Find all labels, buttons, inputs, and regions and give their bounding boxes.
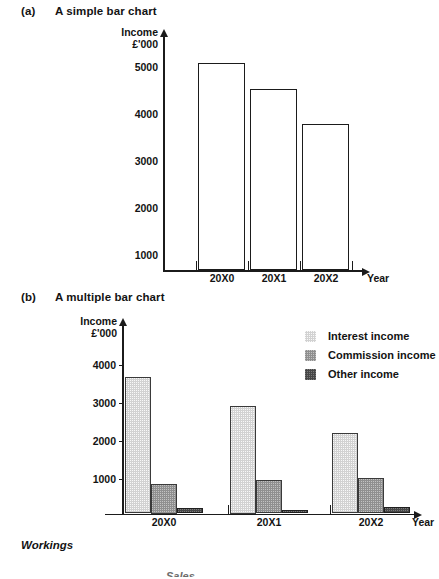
chart-b-ytick-mark-1000	[119, 479, 124, 480]
cut-off-label: Sales	[166, 570, 195, 577]
legend-item-interest-income: Interest income	[305, 330, 409, 342]
legend-swatch-interest-income	[305, 331, 316, 342]
multiple-bar-chart: Income £'000 Year 4000 3000 2000 1000 20…	[0, 0, 439, 579]
chart-b-xtick-20X2: 20X2	[345, 516, 397, 528]
legend-swatch-other-income	[305, 369, 316, 380]
chart-b-x-axis	[105, 514, 415, 516]
chart-b-ytick-mark-3000	[119, 403, 124, 404]
chart-b-y-axis-arrow-icon	[119, 318, 127, 326]
chart-b-bar-20X1-other-income	[282, 510, 308, 513]
chart-b-x-axis-title: Year	[412, 516, 434, 528]
legend-label-interest-income: Interest income	[328, 330, 409, 342]
chart-b-bar-20X0-commission-income	[151, 484, 177, 514]
chart-b-y-axis	[122, 325, 124, 515]
chart-b-ytick-mark-4000	[119, 365, 124, 366]
legend-label-commission-income: Commission income	[328, 349, 436, 361]
chart-b-y-axis-title-line1: Income	[80, 315, 117, 327]
legend-item-other-income: Other income	[305, 368, 399, 380]
chart-b-bar-20X0-interest-income	[125, 377, 151, 513]
chart-b-xsep-1	[123, 505, 124, 514]
chart-b-ytick-2000: 2000	[70, 435, 116, 447]
chart-b-xsep-3	[330, 505, 331, 514]
chart-b-bar-20X1-commission-income	[256, 480, 282, 513]
chart-b-bar-20X2-interest-income	[332, 433, 358, 513]
chart-b-bar-20X0-other-income	[177, 508, 203, 514]
chart-b-ytick-1000: 1000	[70, 473, 116, 485]
chart-b-y-axis-title: Income £'000	[58, 316, 117, 339]
chart-b-bar-20X1-interest-income	[230, 406, 256, 514]
workings-label: Workings	[21, 539, 73, 551]
chart-b-ytick-4000: 4000	[70, 359, 116, 371]
chart-b-ytick-3000: 3000	[70, 397, 116, 409]
chart-b-ytick-mark-2000	[119, 441, 124, 442]
legend-swatch-commission-income	[305, 350, 316, 361]
legend-item-commission-income: Commission income	[305, 349, 436, 361]
chart-b-bar-20X2-other-income	[384, 507, 410, 514]
chart-b-xtick-20X0: 20X0	[138, 516, 190, 528]
legend-label-other-income: Other income	[328, 368, 399, 380]
chart-b-legend: Interest income Commission income Other …	[305, 330, 439, 382]
chart-b-xtick-20X1: 20X1	[243, 516, 295, 528]
chart-b-y-axis-title-line2: £'000	[58, 328, 117, 340]
chart-b-bar-20X2-commission-income	[358, 478, 384, 513]
chart-b-xsep-2	[228, 505, 229, 514]
